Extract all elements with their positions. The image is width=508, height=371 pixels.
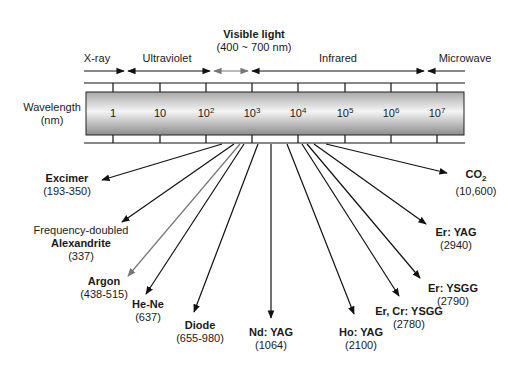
bottom-tick-rail xyxy=(84,135,465,143)
tick-label-1: 1 xyxy=(110,107,116,120)
laser-label-diode: Diode(655-980) xyxy=(170,319,230,345)
visible-light-label: Visible light (400 ~ 700 nm) xyxy=(208,28,300,54)
visible-light-range: (400 ~ 700 nm) xyxy=(208,41,300,54)
visible-light-title: Visible light xyxy=(208,28,300,41)
tick-label-10: 10 xyxy=(154,107,166,120)
laser-label-he-ne: He-Ne(637) xyxy=(126,298,170,324)
laser-label-argon: Argon(438-515) xyxy=(78,275,130,301)
band-label-xray: X-ray xyxy=(84,52,110,65)
band-label-infrared: Infrared xyxy=(319,52,357,65)
tick-label-10-7: 107 xyxy=(429,107,446,120)
tick-label-10-2: 102 xyxy=(198,107,215,120)
axis-title-line1: Wavelength xyxy=(22,101,82,114)
laser-arrows xyxy=(102,144,447,318)
laser-label-er-ysgg: Er: YSGG(2790) xyxy=(420,282,486,308)
axis-title: Wavelength (nm) xyxy=(22,101,82,127)
tick-label-10-6: 106 xyxy=(383,107,400,120)
wavelength-bar xyxy=(86,92,464,135)
laser-label-co2: CO2 (10,600) xyxy=(448,168,504,198)
laser-label-nd-yag: Nd: YAG(1064) xyxy=(240,326,302,352)
band-label-microwave: Microwave xyxy=(439,52,492,65)
top-tick-rail xyxy=(84,83,465,92)
laser-label-alexandrite: Frequency-doubledAlexandrite(337) xyxy=(26,224,136,263)
tick-label-10-3: 103 xyxy=(244,107,261,120)
laser-wavelength-diagram: Visible light (400 ~ 700 nm) X-ray Ultra… xyxy=(0,0,508,371)
tick-label-10-5: 105 xyxy=(337,107,354,120)
laser-label-er-cr-ysgg: Er, Cr: YSGG(2780) xyxy=(370,305,448,331)
tick-label-10-4: 104 xyxy=(290,107,307,120)
axis-title-line2: (nm) xyxy=(22,114,82,127)
laser-label-er-yag: Er: YAG(2940) xyxy=(428,226,484,252)
band-label-ultraviolet: Ultraviolet xyxy=(143,52,192,65)
laser-label-excimer: Excimer(193-350) xyxy=(32,172,102,198)
